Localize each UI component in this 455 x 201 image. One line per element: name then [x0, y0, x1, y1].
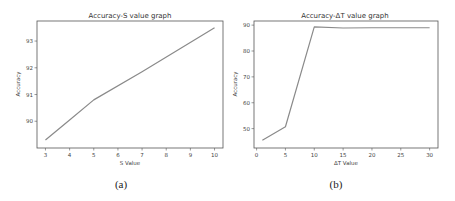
accuracy-line: [45, 28, 214, 140]
x-tick-label: 7: [140, 152, 144, 158]
x-tick-label: 5: [92, 152, 96, 158]
x-tick-label: 9: [189, 152, 193, 158]
chart-accuracy-s: Accuracy-S value graph 345678910 9091929…: [15, 12, 223, 191]
x-tick-label: 0: [255, 152, 259, 158]
y-tick-label: 50: [243, 126, 250, 132]
y-tick-label: 91: [26, 92, 33, 98]
caption-b: (b): [330, 178, 343, 191]
y-tick-label: 90: [26, 118, 33, 124]
x-tick-label: 3: [44, 152, 48, 158]
y-tick-label: 90: [243, 22, 250, 28]
y-axis-ticks: 90919293: [26, 38, 37, 124]
y-tick-label: 93: [26, 38, 33, 44]
x-axis-label: S Value: [120, 160, 141, 166]
y-axis-label: Accuracy: [15, 71, 22, 97]
y-tick-label: 60: [243, 100, 250, 106]
caption-a: (a): [115, 178, 128, 191]
chart-title: Accuracy-ΔT value graph: [301, 12, 389, 20]
x-tick-label: 4: [68, 152, 72, 158]
chart-accuracy-delta-t: Accuracy-ΔT value graph 051015202530 506…: [232, 12, 438, 191]
y-axis-label: Accuracy: [232, 71, 239, 97]
y-tick-label: 92: [26, 65, 33, 71]
y-tick-label: 70: [243, 74, 250, 80]
accuracy-line: [262, 27, 429, 140]
x-axis-ticks: 051015202530: [255, 148, 434, 158]
x-axis-ticks: 345678910: [44, 148, 219, 158]
x-tick-label: 20: [368, 152, 375, 158]
x-tick-label: 10: [211, 152, 218, 158]
chart-title: Accuracy-S value graph: [89, 12, 172, 20]
x-tick-label: 8: [164, 152, 168, 158]
y-axis-ticks: 5060708090: [243, 22, 254, 131]
x-tick-label: 15: [340, 152, 347, 158]
x-axis-label: ΔT Value: [334, 160, 359, 166]
x-tick-label: 25: [397, 152, 404, 158]
x-tick-label: 30: [426, 152, 433, 158]
x-tick-label: 5: [284, 152, 288, 158]
y-tick-label: 80: [243, 48, 250, 54]
x-tick-label: 6: [116, 152, 120, 158]
x-tick-label: 10: [311, 152, 318, 158]
figure: Accuracy-S value graph 345678910 9091929…: [0, 0, 455, 201]
